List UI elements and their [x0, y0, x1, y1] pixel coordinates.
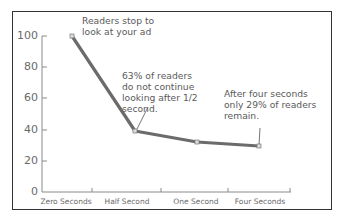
y-axis-ticks — [42, 36, 47, 161]
marker-one-second — [195, 140, 199, 144]
x-tick-label: Four Seconds — [235, 197, 285, 206]
y-tick-label: 20 — [12, 154, 38, 167]
y-tick-label: 100 — [12, 29, 38, 42]
callout-line-four — [259, 128, 260, 145]
y-tick-label: 80 — [12, 60, 38, 73]
marker-half-second — [133, 129, 137, 133]
annotation-half-second: 63% of readers do not continue looking a… — [122, 70, 198, 114]
annotation-start: Readers stop to look at your ad — [82, 15, 154, 37]
x-tick-label: One Second — [173, 197, 218, 206]
x-tick-label: Zero Seconds — [40, 197, 91, 206]
x-tick-label: Half Second — [105, 197, 150, 206]
marker-four-seconds — [257, 144, 261, 148]
y-tick-label: 0 — [12, 185, 38, 198]
annotation-four-seconds: After four seconds only 29% of readers r… — [224, 88, 316, 121]
marker-zero-seconds — [70, 34, 74, 38]
x-axis-ticks — [92, 188, 290, 192]
y-tick-label: 40 — [12, 123, 38, 136]
y-tick-label: 60 — [12, 91, 38, 104]
